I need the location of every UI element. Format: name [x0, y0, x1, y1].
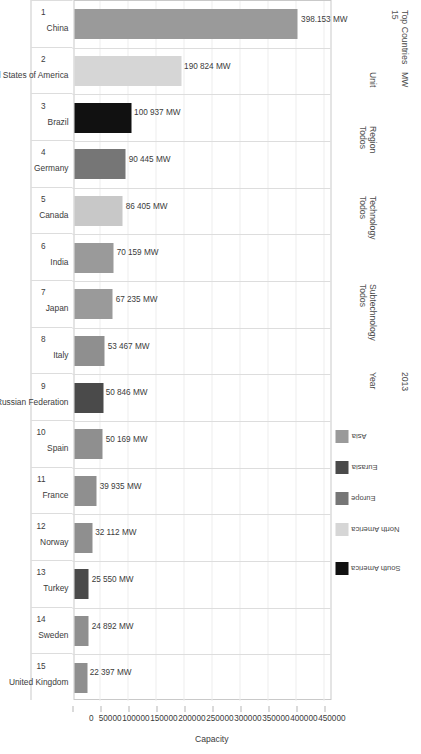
axis-tick-mark: [100, 706, 101, 712]
filter-region-value: Todos: [356, 126, 366, 153]
axis-tick-mark: [128, 706, 129, 712]
rank-label: 5: [40, 195, 45, 204]
filter-region-label: Region: [367, 126, 377, 153]
filter-top-countries-label: Top Countries: [399, 10, 409, 64]
legend-label: Asia: [351, 432, 366, 441]
rank-label: 12: [36, 522, 45, 531]
rank-label: 9: [40, 382, 45, 391]
category-label: Sweden: [38, 630, 68, 640]
category-label: Spain: [47, 443, 68, 453]
axis-tick-mark: [240, 706, 241, 712]
filter-technology-value: Todos: [356, 196, 366, 239]
axis-tick-label: 100000: [122, 714, 149, 723]
legend-item-south-america[interactable]: South America: [335, 562, 348, 604]
filter-year-label: Year: [367, 372, 377, 389]
axis-tick-label: 150000: [150, 714, 177, 723]
filter-unit-label: Unit: [367, 72, 377, 87]
rank-label: 4: [40, 148, 45, 157]
rank-label: 7: [40, 288, 45, 297]
filter-top-countries[interactable]: Top Countries 15: [388, 10, 409, 64]
legend-swatch: [335, 492, 348, 505]
filter-unit[interactable]: Unit: [367, 72, 377, 87]
category-label: Russian Federation: [0, 397, 68, 407]
category-label: Brazil: [47, 117, 68, 127]
category-label: Japan: [45, 303, 68, 313]
filter-technology[interactable]: Technology Todos: [356, 196, 377, 239]
category-label: France: [42, 490, 68, 500]
axis-tick-label: 400000: [290, 714, 317, 723]
legend-item-north-america[interactable]: North America: [335, 523, 348, 565]
legend-swatch: [335, 430, 348, 443]
rank-label: 1: [40, 8, 45, 17]
rank-label: 14: [36, 615, 45, 624]
category-label: Italy: [53, 350, 68, 360]
rank-label: 3: [40, 102, 45, 111]
filter-technology-label: Technology: [367, 196, 377, 239]
axis-tick-mark: [268, 706, 269, 712]
category-label: Canada: [39, 210, 68, 220]
axis-tick-label: 300000: [234, 714, 261, 723]
axis-tick-mark: [296, 706, 297, 712]
filter-bar: Top Countries 15 Unit MW Region Todos Te…: [335, 0, 421, 754]
axis-tick-label: 50000: [98, 714, 121, 723]
legend-label: Europe: [351, 494, 376, 503]
category-label: United States of America: [0, 70, 68, 80]
filter-top-countries-value: 15: [388, 10, 398, 64]
filter-year-value: 2013: [399, 372, 409, 391]
dashboard-stage: Top Countries 15 Unit MW Region Todos Te…: [0, 0, 421, 754]
category-label: Germany: [34, 163, 68, 173]
category-labels: China1United States of America2Brazil3Ge…: [31, 0, 331, 754]
axis-tick-mark: [324, 706, 325, 712]
rank-label: 6: [40, 242, 45, 251]
rank-label: 8: [40, 335, 45, 344]
screenshot-root: Top Countries 15 Unit MW Region Todos Te…: [0, 0, 421, 754]
axis-tick-mark: [184, 706, 185, 712]
legend-label: South America: [351, 564, 400, 573]
legend-swatch: [335, 562, 348, 575]
filter-subtechnology[interactable]: Subtechnology Todos: [356, 284, 377, 341]
filter-unit-value: MW: [399, 72, 409, 87]
filter-subtechnology-value: Todos: [356, 284, 366, 341]
filter-region[interactable]: Region Todos: [356, 126, 377, 153]
category-label: Norway: [40, 537, 68, 547]
category-label: Turkey: [43, 583, 68, 593]
category-label: China: [46, 23, 68, 33]
category-label: India: [50, 257, 68, 267]
filter-subtechnology-label: Subtechnology: [367, 284, 377, 341]
axis-tick-label: 250000: [206, 714, 233, 723]
rank-label: 15: [36, 662, 45, 671]
legend-label: North America: [351, 525, 399, 534]
axis-title: Capacity: [194, 734, 227, 744]
legend-swatch: [335, 523, 348, 536]
filter-year[interactable]: Year: [367, 372, 377, 389]
bar-chart: 398.153 MW190 824 MW100 937 MW90 445 MW8…: [31, 0, 331, 754]
legend-label: Eurasia: [351, 463, 377, 472]
rank-label: 10: [36, 428, 45, 437]
axis-tick-label: 350000: [262, 714, 289, 723]
legend-swatch: [335, 461, 348, 474]
rank-label: 11: [37, 475, 46, 484]
axis-tick-label: 0: [88, 714, 93, 723]
axis-tick-mark: [212, 706, 213, 712]
axis-tick-label: 450000: [318, 714, 345, 723]
axis-tick-mark: [72, 706, 73, 712]
axis-tick-mark: [156, 706, 157, 712]
rank-label: 2: [40, 55, 45, 64]
rank-label: 13: [36, 568, 45, 577]
axis-tick-label: 200000: [178, 714, 205, 723]
category-label: United Kingdom: [8, 677, 68, 687]
